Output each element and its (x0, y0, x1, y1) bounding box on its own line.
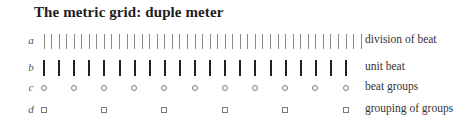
unit-beat-tick (254, 60, 256, 76)
division-tick (278, 34, 279, 49)
unit-beat-tick (224, 60, 226, 76)
division-tick (361, 34, 362, 49)
division-tick (315, 34, 316, 49)
division-tick (210, 34, 211, 49)
unit-beat-tick (345, 60, 347, 76)
division-tick (187, 34, 188, 49)
unit-beat-tick (149, 60, 151, 76)
unit-beat-tick (300, 60, 302, 76)
division-tick (293, 34, 294, 49)
unit-beat-tick (73, 60, 75, 76)
division-tick (179, 34, 180, 49)
beat-group-circle (282, 85, 288, 91)
unit-beat-tick (103, 60, 105, 76)
row-label-beat-groups: beat groups (365, 80, 418, 92)
division-tick (66, 34, 67, 49)
unit-beat-tick (330, 60, 332, 76)
division-tick (172, 34, 173, 49)
division-tick (142, 34, 143, 49)
division-tick (195, 34, 196, 49)
division-tick (164, 34, 165, 49)
row-label-division-of-beat: division of beat (365, 33, 437, 45)
division-tick (353, 34, 354, 49)
division-tick (119, 34, 120, 49)
unit-beat-tick (119, 60, 121, 76)
division-tick (81, 34, 82, 49)
unit-beat-tick (315, 60, 317, 76)
group-of-groups-square (101, 107, 107, 113)
unit-beat-tick (285, 60, 287, 76)
division-tick (300, 34, 301, 49)
unit-beat-tick (88, 60, 90, 76)
division-tick (134, 34, 135, 49)
division-tick (104, 34, 105, 49)
division-tick (285, 34, 286, 49)
division-tick (51, 34, 52, 49)
division-tick (217, 34, 218, 49)
division-tick (262, 34, 263, 49)
division-tick (111, 34, 112, 49)
division-tick (127, 34, 128, 49)
group-of-groups-square (41, 107, 47, 113)
unit-beat-tick (164, 60, 166, 76)
unit-beat-tick (179, 60, 181, 76)
division-tick (149, 34, 150, 49)
division-tick (202, 34, 203, 49)
division-tick (240, 34, 241, 49)
beat-group-circle (312, 85, 318, 91)
beat-group-circle (192, 85, 198, 91)
row-label-grouping-of-groups: grouping of groups (365, 102, 453, 114)
division-tick (96, 34, 97, 49)
division-tick (308, 34, 309, 49)
group-of-groups-square (161, 107, 167, 113)
unit-beat-tick (134, 60, 136, 76)
division-tick (225, 34, 226, 49)
unit-beat-tick (270, 60, 272, 76)
division-tick (270, 34, 271, 49)
group-of-groups-square (282, 107, 288, 113)
beat-group-circle (222, 85, 228, 91)
unit-beat-tick (239, 60, 241, 76)
beat-group-circle (131, 85, 137, 91)
division-tick (157, 34, 158, 49)
division-tick (323, 34, 324, 49)
unit-beat-tick (209, 60, 211, 76)
group-of-groups-square (222, 107, 228, 113)
division-tick (338, 34, 339, 49)
division-tick (247, 34, 248, 49)
beat-group-circle (161, 85, 167, 91)
beat-group-circle (343, 85, 349, 91)
group-of-groups-square (343, 107, 349, 113)
beat-group-circle (71, 85, 77, 91)
row-label-unit-beat: unit beat (365, 60, 405, 72)
division-tick (346, 34, 347, 49)
division-tick (59, 34, 60, 49)
beat-group-circle (101, 85, 107, 91)
division-tick (255, 34, 256, 49)
unit-beat-tick (43, 60, 45, 76)
unit-beat-tick (194, 60, 196, 76)
division-tick (44, 34, 45, 49)
beat-group-circle (41, 85, 47, 91)
division-tick (330, 34, 331, 49)
unit-beat-tick (58, 60, 60, 76)
division-tick (89, 34, 90, 49)
division-tick (74, 34, 75, 49)
beat-group-circle (252, 85, 258, 91)
division-tick (232, 34, 233, 49)
